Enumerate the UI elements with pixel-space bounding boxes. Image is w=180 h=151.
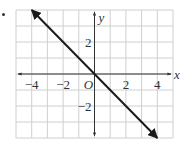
coordinate-plane: −4−2242−2Oxy bbox=[0, 0, 180, 151]
x-tick-label: 4 bbox=[154, 77, 161, 92]
y-tick-label: −2 bbox=[78, 99, 92, 114]
x-axis-label: x bbox=[173, 67, 180, 82]
x-tick-label: −2 bbox=[56, 77, 70, 92]
origin-label: O bbox=[84, 77, 94, 92]
y-tick-label: 2 bbox=[85, 35, 92, 50]
x-tick-label: −4 bbox=[25, 77, 39, 92]
y-axis-label: y bbox=[97, 10, 105, 25]
x-tick-label: 2 bbox=[123, 77, 130, 92]
